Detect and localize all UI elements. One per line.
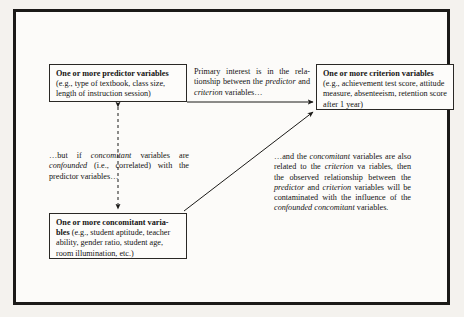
box-concomitant-body: (e.g., student aptitude, teacher ability… xyxy=(56,228,170,257)
note-andthe-em3: predictor xyxy=(274,183,304,192)
note-andthe-em1: concomitant xyxy=(310,152,350,161)
box-predictor-heading: One or more predictor variables xyxy=(56,69,169,78)
box-predictor-body: (e.g., type of textbook, class size, len… xyxy=(56,79,165,98)
note-primary-part2: and xyxy=(296,77,310,86)
note-andthe-part4: and xyxy=(304,183,322,192)
box-concomitant-variables: One or more concomitant varia- bles (e.g… xyxy=(49,213,187,259)
box-concomitant-heading-cont: bles xyxy=(56,228,70,237)
note-butif-em2: confounded xyxy=(49,161,87,170)
box-criterion-body: (e.g., achievement test score, attitude … xyxy=(323,79,447,108)
note-primary-em1: predictor xyxy=(265,77,295,86)
note-butif-part2: variables are xyxy=(131,151,189,160)
figure-root: One or more predictor variables (e.g., t… xyxy=(0,0,464,317)
note-butif-part1: …but if xyxy=(49,151,91,160)
note-andthe-em5: confounded concomitant xyxy=(274,203,355,212)
box-criterion-heading: One or more criterion variables xyxy=(323,69,434,78)
note-but-if-concomitant: …but if concomitant variables are confou… xyxy=(49,151,189,182)
note-and-the-concomitant: …and the concomitant variables are also … xyxy=(274,152,411,214)
note-andthe-em4: criterion xyxy=(323,183,352,192)
box-predictor-variables: One or more predictor variables (e.g., t… xyxy=(49,64,187,102)
note-andthe-part1: …and the xyxy=(274,152,310,161)
note-primary-part3: variables… xyxy=(223,88,263,97)
page-frame: One or more predictor variables (e.g., t… xyxy=(13,9,450,305)
box-concomitant-heading: One or more concomitant varia- xyxy=(56,218,168,227)
note-primary-interest: Primary interest is in the rela-tionship… xyxy=(194,67,310,98)
box-criterion-variables: One or more criterion variables (e.g., a… xyxy=(316,64,454,110)
note-primary-em2: criterion xyxy=(194,88,223,97)
note-andthe-part6: variables. xyxy=(355,203,389,212)
note-andthe-em2: criterion xyxy=(325,162,354,171)
note-butif-em1: concomitant xyxy=(91,151,131,160)
